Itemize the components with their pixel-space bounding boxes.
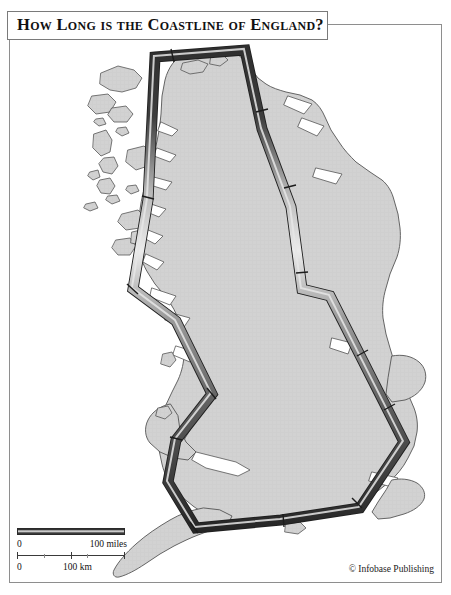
scale-tick-start xyxy=(17,552,18,559)
scale-tick-minor xyxy=(87,554,88,558)
publisher-attribution: © Infobase Publishing xyxy=(349,564,434,574)
scale-miles-end: 100 miles xyxy=(90,539,127,549)
scale-km-labels: 0 100 km xyxy=(17,562,127,574)
scale-tick-mid xyxy=(71,552,72,559)
scale-tick-end xyxy=(124,552,125,559)
map-frame xyxy=(9,24,442,583)
scale-bar: 0 100 miles 0 100 km xyxy=(17,528,137,574)
scale-km-mid: 100 km xyxy=(63,562,92,572)
page-title: How Long is the Coastline of England? xyxy=(17,17,324,34)
scale-miles-labels: 0 100 miles xyxy=(17,539,127,551)
scale-km-start: 0 xyxy=(17,562,22,572)
scale-tick-minor xyxy=(44,554,45,558)
scale-bar-graphic xyxy=(17,528,125,535)
scale-miles-start: 0 xyxy=(17,539,22,549)
map-title-plate: How Long is the Coastline of England? xyxy=(7,11,328,40)
scale-axis xyxy=(17,552,125,560)
